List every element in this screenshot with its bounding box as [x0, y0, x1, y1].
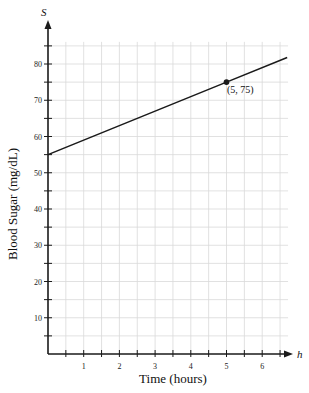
line-chart: 1234561020304050607080 S h (5, 75) Time … — [0, 0, 309, 393]
y-axis-arrow-icon — [45, 20, 52, 29]
y-tick-label: 30 — [34, 241, 42, 250]
x-axis-arrow-icon — [284, 351, 293, 358]
x-tick-label: 3 — [153, 362, 157, 371]
y-tick-label: 60 — [34, 133, 42, 142]
y-tick-label: 40 — [34, 205, 42, 214]
x-tick-label: 5 — [225, 362, 229, 371]
y-tick-label: 70 — [34, 96, 42, 105]
x-tick-label: 4 — [189, 362, 193, 371]
y-tick-label: 50 — [34, 169, 42, 178]
x-axis-title: Time (hours) — [139, 371, 207, 386]
x-tick-label: 1 — [82, 362, 86, 371]
x-axis-variable: h — [297, 348, 303, 360]
y-tick-label: 10 — [34, 314, 42, 323]
x-tick-label: 2 — [117, 362, 121, 371]
y-axis-variable: S — [41, 6, 47, 18]
y-tick-label: 20 — [34, 278, 42, 287]
x-tick-label: 6 — [260, 362, 264, 371]
y-axis-title: Blood Sugar (mg/dL) — [5, 148, 20, 260]
point-label: (5, 75) — [227, 84, 254, 96]
y-tick-label: 80 — [34, 60, 42, 69]
